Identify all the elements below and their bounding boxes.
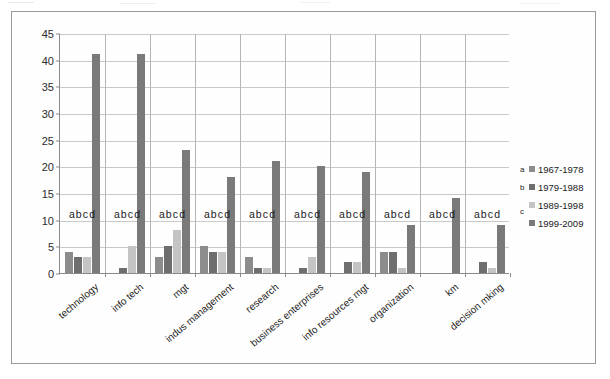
bar-b [209,252,217,273]
legend-swatch [529,166,535,172]
x-axis-tick [240,273,241,277]
y-axis-tick-label: 10 [42,215,54,226]
abcd-label: abcd [69,208,96,220]
bar-group [420,34,465,273]
bar-group [105,34,150,273]
bar-d [92,54,100,273]
bar-group [150,34,195,273]
bar-c [173,230,181,273]
bar-group [465,34,510,273]
chart-plot-frame: 051015202530354045 abcdabcdabcdabcdabcda… [11,11,596,364]
bar-c [353,262,361,273]
group-separator [105,34,106,277]
legend-series-key: a [520,165,529,174]
bar-c [308,257,316,273]
abcd-label: abcd [249,208,276,220]
y-axis-tick-label: 15 [42,189,54,200]
bar-chart: 051015202530354045 abcdabcdabcdabcdabcda… [0,0,610,379]
legend-label: 1999-2009 [538,218,583,229]
y-axis-tick-mark [56,274,60,275]
bar-group [375,34,420,273]
category-label: mgt [171,282,190,300]
bar-b [119,268,127,273]
category-label: organization [367,282,415,325]
legend-item: 1989-1998c [520,196,610,214]
x-axis-tick [330,273,331,277]
y-axis-tick-label: 20 [42,162,54,173]
plot-area: 051015202530354045 abcdabcdabcdabcdabcda… [59,34,509,274]
bar-c [128,246,136,273]
bar-b [164,246,172,273]
x-axis-tick [420,273,421,277]
x-axis-tick [465,273,466,277]
x-axis-tick [195,273,196,277]
legend-item: a1967-1978 [520,160,610,178]
bars-layer [60,34,509,273]
x-axis-tick [375,273,376,277]
group-separator [285,34,286,277]
bar-d [137,54,145,273]
category-label: km [443,282,460,298]
y-axis-tick-label: 30 [42,109,54,120]
bar-b [74,257,82,273]
y-axis-tick-label: 0 [48,269,54,280]
scan-artifact [520,3,560,4]
legend-item: 1999-2009 [520,214,610,232]
abcd-label: abcd [204,208,231,220]
bar-group [60,34,105,273]
bar-c [263,268,271,273]
group-separator [420,34,421,277]
x-axis-tick [150,273,151,277]
scan-artifact [300,2,330,3]
bar-b [389,252,397,273]
legend-swatch [529,184,535,190]
chart-legend: a1967-1978b1979-19881989-1998c1999-2009 [520,160,610,232]
bar-b [299,268,307,273]
legend-swatch [529,220,535,226]
bar-b [254,268,262,273]
bar-a [200,246,208,273]
bar-c [218,252,226,273]
abcd-label: abcd [294,208,321,220]
abcd-label: abcd [384,208,411,220]
category-label: research [244,282,280,315]
scan-artifact [8,2,34,3]
scan-artifact [120,3,156,4]
legend-swatch [529,202,535,208]
bar-a [65,252,73,273]
x-axis-tick [285,273,286,277]
bar-d [407,225,415,273]
bar-d [497,225,505,273]
bar-c [398,268,406,273]
y-axis-tick-label: 45 [42,29,54,40]
bar-d [227,177,235,273]
bar-group [240,34,285,273]
group-separator [375,34,376,277]
group-separator [465,34,466,277]
legend-item: b1979-1988 [520,178,610,196]
group-separator [150,34,151,277]
y-axis-tick-label: 40 [42,55,54,66]
group-separator [330,34,331,277]
bar-b [479,262,487,273]
abcd-label: abcd [159,208,186,220]
bar-b [344,262,352,273]
x-axis-tick [105,273,106,277]
group-separator [195,34,196,277]
legend-label: 1989-1998 [538,200,583,211]
legend-series-key: b [520,183,529,192]
bar-d [362,172,370,273]
bar-a [380,252,388,273]
category-label: info tech [110,282,145,314]
group-separator [240,34,241,277]
bar-c [83,257,91,273]
bar-group [285,34,330,273]
bar-c [488,268,496,273]
x-axis-tick [510,273,511,277]
bar-group [330,34,375,273]
bar-a [245,257,253,273]
y-axis-tick-label: 25 [42,135,54,146]
category-label: technology [56,282,99,321]
legend-label: 1967-1978 [538,164,583,175]
y-axis-tick-label: 35 [42,82,54,93]
